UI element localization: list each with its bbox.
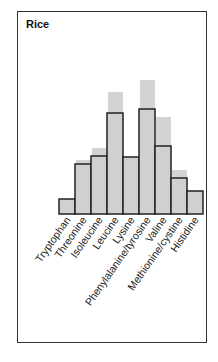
rice-bar — [187, 191, 203, 214]
rice-bar — [91, 156, 107, 214]
rice-bar — [139, 109, 155, 214]
bar-chart: TryptophanThreonineIsoleucineLeucineLysi… — [0, 0, 218, 362]
rice-bar — [123, 157, 139, 214]
rice-bar — [75, 164, 91, 214]
rice-bar — [107, 113, 123, 214]
rice-bar — [59, 199, 75, 214]
rice-bar — [171, 178, 187, 214]
rice-bar — [155, 146, 171, 214]
